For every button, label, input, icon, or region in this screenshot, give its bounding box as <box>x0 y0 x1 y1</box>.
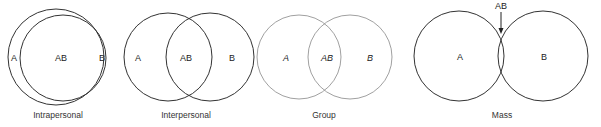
diagram-interpersonal: A AB B Interpersonal <box>124 13 254 120</box>
label-ab: AB <box>180 53 192 63</box>
venn-diagrams-canvas: A AB B Intrapersonal A AB B Interpersona… <box>0 0 601 127</box>
label-b: B <box>99 53 105 63</box>
caption-group: Group <box>312 110 336 120</box>
label-ab: AB <box>55 53 67 63</box>
label-a: A <box>457 52 463 62</box>
label-b: B <box>229 53 235 63</box>
label-a: A <box>11 53 17 63</box>
label-ab: AB <box>320 53 333 63</box>
caption-intrapersonal: Intrapersonal <box>33 110 83 120</box>
label-b: B <box>367 53 373 63</box>
caption-interpersonal: Interpersonal <box>161 110 211 120</box>
label-b: B <box>541 52 547 62</box>
diagram-group: A AB B Group <box>257 15 392 120</box>
label-ab: AB <box>495 1 507 11</box>
diagram-intrapersonal: A AB B Intrapersonal <box>8 9 106 120</box>
caption-mass: Mass <box>492 110 512 120</box>
label-a: A <box>282 53 289 63</box>
diagram-mass: A B AB Mass <box>414 1 588 120</box>
arrow-down-icon <box>499 28 504 34</box>
label-a: A <box>135 53 141 63</box>
